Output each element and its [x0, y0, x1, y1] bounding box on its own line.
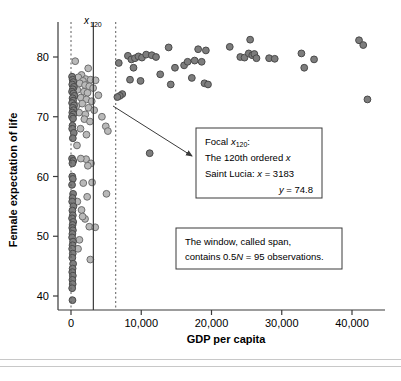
- focal-label-x: x: [83, 15, 90, 26]
- data-point: [202, 47, 209, 54]
- span-box-line-2: contains 0.5N = 95 observations.: [185, 251, 324, 262]
- data-point: [165, 44, 172, 51]
- data-point: [72, 58, 79, 65]
- data-point: [80, 180, 87, 187]
- data-point: [70, 115, 77, 122]
- span-box-border: [176, 228, 342, 269]
- data-point: [95, 92, 102, 99]
- data-point: [69, 160, 76, 167]
- focal-box-line-2: The 120th ordered x: [205, 152, 292, 163]
- data-point: [271, 55, 278, 62]
- data-point: [104, 128, 111, 135]
- data-point: [127, 76, 134, 83]
- data-point: [69, 285, 76, 292]
- data-point: [114, 94, 121, 101]
- span-box-line-1: The window, called span,: [185, 236, 291, 247]
- data-point: [91, 107, 98, 114]
- data-point: [167, 81, 174, 88]
- x-tick-label: 0: [68, 317, 74, 329]
- y-tick-label: 80: [37, 51, 49, 63]
- y-tick-label: 40: [37, 290, 49, 302]
- x-tick-label: 30,000: [265, 317, 299, 329]
- span-annotation-box: The window, called span, contains 0.5N =…: [176, 228, 342, 269]
- data-point: [157, 71, 164, 78]
- y-tick-label: 50: [37, 230, 49, 242]
- x-tick-label: 40,000: [335, 317, 369, 329]
- data-point: [84, 162, 91, 169]
- focal-box-line-4: y = 74.8: [278, 184, 313, 195]
- data-point: [360, 42, 367, 49]
- data-point: [88, 98, 95, 105]
- x-tick-label: 20,000: [195, 317, 229, 329]
- data-point: [87, 118, 94, 125]
- focal-line-label: x 120: [83, 15, 102, 28]
- footer-divider-top: [0, 359, 401, 360]
- data-point: [188, 75, 195, 82]
- data-point: [78, 207, 85, 214]
- plot-canvas: 010,00020,00030,00040,0004050607080 GDP …: [0, 0, 401, 381]
- data-point: [298, 50, 305, 57]
- data-point: [137, 78, 144, 85]
- reference-lines-layer: [71, 22, 116, 310]
- x-axis-title: GDP per capita: [187, 333, 267, 345]
- data-point: [74, 142, 81, 149]
- data-point: [364, 96, 371, 103]
- data-point: [84, 89, 91, 96]
- data-point: [153, 54, 160, 61]
- scatter-plot-figure: 010,00020,00030,00040,0004050607080 GDP …: [0, 0, 401, 381]
- data-point: [253, 55, 260, 62]
- data-point: [172, 64, 179, 71]
- focal-annotation-box: Focal x120: The 120th ordered x Saint Lu…: [196, 128, 322, 198]
- data-point: [191, 57, 198, 64]
- data-point: [130, 64, 137, 71]
- data-point: [85, 65, 92, 72]
- data-point: [77, 155, 84, 162]
- data-point: [205, 81, 212, 88]
- data-point: [301, 64, 308, 71]
- data-point: [247, 36, 254, 43]
- data-point: [226, 43, 233, 50]
- data-point: [184, 58, 191, 65]
- data-point: [69, 135, 76, 142]
- focal-label-subscript: 120: [90, 21, 102, 28]
- focal-pointer-arrow: [113, 106, 192, 156]
- data-point: [87, 256, 94, 263]
- data-point: [311, 56, 318, 63]
- data-point: [69, 181, 76, 188]
- data-point: [195, 46, 202, 53]
- data-point: [198, 58, 205, 65]
- data-point: [89, 179, 96, 186]
- data-point: [99, 113, 106, 120]
- y-tick-label: 60: [37, 171, 49, 183]
- annotation-arrow: [113, 106, 192, 156]
- footer-divider-bottom: [0, 366, 401, 367]
- data-point: [103, 190, 110, 197]
- y-axis-title: Female expectation of life: [7, 113, 19, 247]
- data-point: [76, 236, 83, 243]
- data-point: [115, 60, 122, 67]
- data-point: [146, 150, 153, 157]
- data-point: [84, 193, 91, 200]
- data-point: [77, 125, 84, 132]
- data-point: [83, 131, 90, 138]
- series-inside-span: [72, 58, 111, 263]
- data-point: [79, 213, 86, 220]
- y-tick-label: 70: [37, 111, 49, 123]
- focal-box-line-3: Saint Lucia: x = 3183: [205, 168, 294, 179]
- x-tick-label: 10,000: [124, 317, 158, 329]
- data-point: [69, 297, 76, 304]
